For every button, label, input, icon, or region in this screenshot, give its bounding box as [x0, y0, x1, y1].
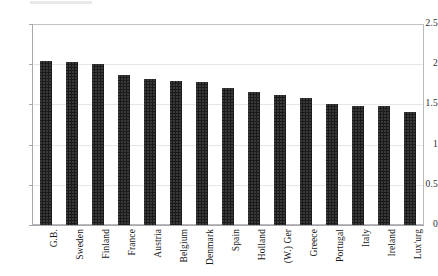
x-axis-category-label: Holland	[258, 229, 268, 260]
bar	[248, 92, 260, 225]
bar	[378, 106, 390, 225]
bar-series	[0, 0, 438, 276]
bar	[222, 88, 234, 225]
bar	[326, 104, 338, 225]
x-axis-category-label: Austria	[154, 229, 164, 258]
x-axis-category-label: France	[128, 229, 138, 255]
bar	[170, 81, 182, 225]
x-axis-category-label: Greece	[310, 229, 320, 257]
bar	[300, 98, 312, 225]
bar	[144, 79, 156, 225]
x-axis-category-label: Lux'urg	[414, 229, 424, 259]
x-axis-category-label: Italy	[362, 229, 372, 247]
x-axis-category-label: Denmark	[206, 229, 216, 265]
x-axis-category-label: Spain	[232, 229, 242, 251]
bar	[404, 112, 416, 225]
bar	[274, 95, 286, 225]
x-axis-category-label: Portugal	[336, 229, 346, 262]
x-axis-category-label: G.B.	[50, 229, 60, 247]
bar-chart: 00.511.522.5 G.B.SwedenFinlandFranceAust…	[0, 0, 438, 276]
bar	[92, 64, 104, 225]
x-axis-category-label: Finland	[102, 229, 112, 259]
bar	[40, 61, 52, 225]
bar	[66, 62, 78, 225]
bar	[118, 75, 130, 225]
x-axis-category-label: Ireland	[388, 229, 398, 257]
x-axis-category-label: Sweden	[76, 229, 86, 260]
x-axis-category-label: (W.) Ger	[284, 229, 294, 263]
bar	[196, 82, 208, 225]
bar	[352, 106, 364, 225]
x-axis-category-label: Belgium	[180, 229, 190, 262]
